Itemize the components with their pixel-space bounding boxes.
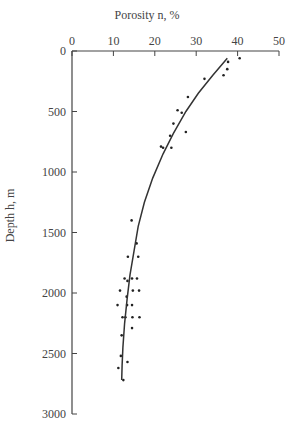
y-tick-label: 2500 [42,347,66,361]
data-point [130,219,133,222]
fit-curve [122,58,228,380]
data-point [222,74,225,77]
x-tick-label: 20 [149,34,161,48]
data-point [120,334,123,337]
data-point [132,289,135,292]
data-point [185,131,188,134]
data-point [131,304,134,307]
data-point [136,277,139,280]
data-point [176,109,179,112]
data-point [238,57,241,60]
data-point [131,277,134,280]
x-tick-label: 10 [107,34,119,48]
x-tick-label: 50 [273,34,285,48]
data-point [127,255,130,258]
y-tick-label: 1500 [42,226,66,240]
y-tick-label: 1000 [42,165,66,179]
y-tick-label: 2000 [42,286,66,300]
data-point [170,147,173,150]
data-point [138,289,141,292]
y-tick-label: 0 [60,44,66,58]
data-point [119,289,122,292]
data-point [226,68,229,71]
y-tick-label: 500 [48,105,66,119]
porosity-depth-chart: 01020304050050010001500200025003000 [0,0,294,434]
data-point [123,277,126,280]
x-tick-label: 40 [232,34,244,48]
data-point [131,316,134,319]
data-point [180,111,183,114]
x-tick-label: 0 [69,34,75,48]
data-point [131,327,134,330]
data-point [172,122,175,125]
data-point [138,316,141,319]
data-point [116,304,119,307]
data-point [117,367,120,370]
data-point [126,361,129,364]
data-point [227,61,230,64]
data-point [137,255,140,258]
data-point [187,96,190,99]
data-point [203,78,206,81]
data-point [121,316,124,319]
x-tick-label: 30 [190,34,202,48]
data-point [162,147,165,150]
y-tick-label: 3000 [42,407,66,421]
data-point [126,280,129,283]
